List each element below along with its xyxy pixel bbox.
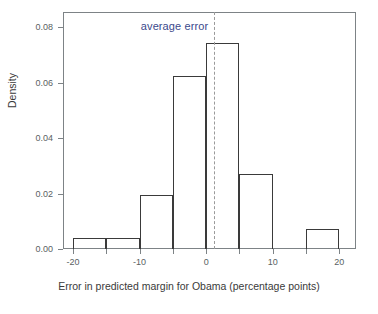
y-axis-tick: [58, 27, 63, 28]
histogram-bar: [173, 76, 206, 249]
x-axis-tick: [173, 249, 174, 254]
y-axis-tick: [58, 83, 63, 84]
y-axis-tick-label: 0.02: [19, 190, 53, 199]
average-error-line: [214, 12, 215, 249]
histogram-bar: [140, 195, 173, 249]
y-axis-tick-label: 0.00: [19, 245, 53, 254]
y-axis-title: Density: [6, 73, 18, 108]
x-axis-title: Error in predicted margin for Obama (per…: [0, 280, 378, 292]
x-axis-tick: [273, 249, 274, 254]
x-axis-tick: [306, 249, 307, 254]
y-axis-tick: [58, 194, 63, 195]
x-axis-tick-label: -20: [66, 258, 79, 267]
y-axis-tick-label: 0.06: [19, 79, 53, 88]
x-axis-tick-label: 10: [268, 258, 278, 267]
histogram-bar: [239, 174, 272, 249]
x-axis-tick: [140, 249, 141, 254]
x-axis-tick: [206, 249, 207, 254]
x-axis-tick-label: 0: [204, 258, 209, 267]
x-axis-tick: [239, 249, 240, 254]
x-axis-tick-label: -10: [133, 258, 146, 267]
histogram-bar: [306, 229, 339, 249]
average-error-label: average error: [141, 20, 208, 32]
histogram-bars: [63, 12, 356, 249]
y-axis-tick: [58, 249, 63, 250]
y-axis-tick-label: 0.08: [19, 23, 53, 32]
x-axis-tick: [106, 249, 107, 254]
y-axis-tick-label: 0.04: [19, 134, 53, 143]
histogram-bar: [206, 43, 239, 250]
histogram-bar: [106, 238, 139, 249]
histogram-figure: average error 0.000.020.040.060.08 -20-1…: [0, 0, 378, 314]
x-axis-tick: [339, 249, 340, 254]
x-axis-tick-label: 20: [334, 258, 344, 267]
histogram-bar: [73, 238, 106, 249]
x-axis-tick: [73, 249, 74, 254]
y-axis-tick: [58, 138, 63, 139]
